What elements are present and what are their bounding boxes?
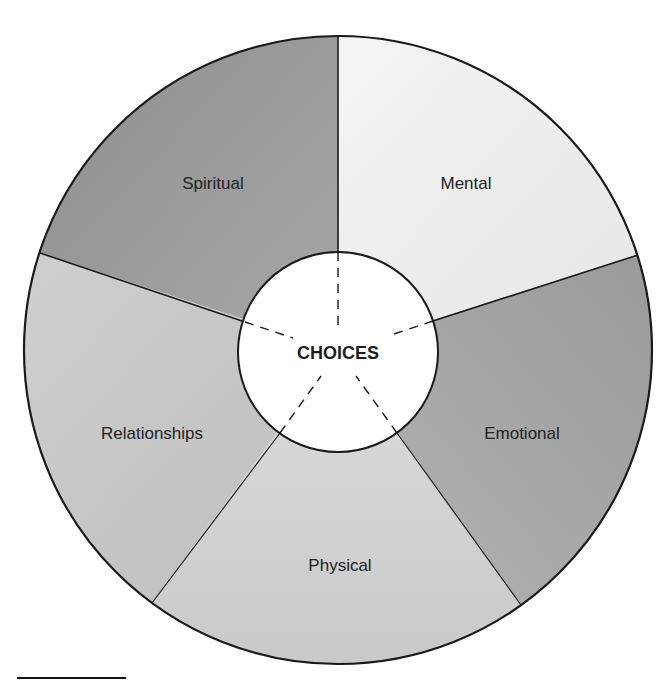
label-spiritual: Spiritual [182,174,243,193]
label-emotional: Emotional [484,424,560,443]
choices-wheel-diagram: Spiritual Mental Emotional Physical Rela… [0,0,671,683]
label-mental: Mental [440,174,491,193]
center-label: CHOICES [297,343,379,363]
label-relationships: Relationships [101,424,203,443]
label-physical: Physical [308,556,371,575]
footnote-rule [17,677,126,679]
